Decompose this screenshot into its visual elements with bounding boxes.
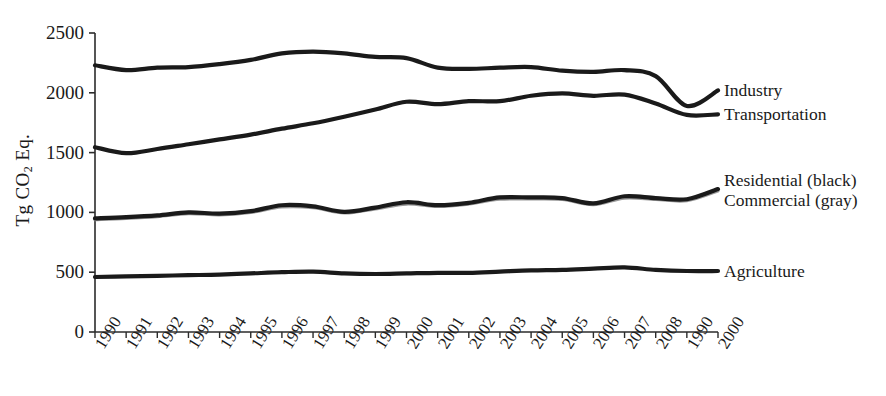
series-label: Agriculture [724,262,805,282]
x-tick-label: 2001 [434,313,469,352]
x-tick-label: 2007 [621,313,656,352]
series-label: Residential (black)Commercial (gray) [724,171,858,210]
x-tick-label: 1990 [91,313,126,352]
x-tick-label: 1992 [153,313,188,352]
x-tick-label: 1994 [216,313,251,352]
x-tick-label: 1991 [122,313,157,352]
series-label-line1: Industry [724,81,782,101]
series-label: Industry [724,81,782,101]
x-tick-label: 2008 [652,313,687,352]
chart-figure: Tg CO2 Eq. 05001000150020002500 19901991… [0,0,886,396]
x-tick-label: 1999 [371,313,406,352]
series-label: Transportation [724,105,826,125]
x-tick-label: 1990 [683,313,718,352]
x-tick-label: 1995 [247,313,282,352]
x-tick-label: 2000 [403,313,438,352]
x-tick-label: 2002 [465,313,500,352]
x-tick-label: 1997 [309,313,344,352]
x-tick-label: 2003 [496,313,531,352]
series-label-line2: Commercial (gray) [724,191,858,211]
x-tick-label: 1993 [184,313,219,352]
x-tick-label: 1998 [340,313,375,352]
x-tick-label: 1996 [278,313,313,352]
series-label-line1: Agriculture [724,262,805,282]
x-tick-label: 2006 [589,313,624,352]
x-tick-label: 2004 [527,313,562,352]
x-tick-label: 2005 [558,313,593,352]
series-label-line1: Transportation [724,105,826,125]
series-label-line1: Residential (black) [724,171,858,191]
x-tick-label: 2000 [714,313,749,352]
